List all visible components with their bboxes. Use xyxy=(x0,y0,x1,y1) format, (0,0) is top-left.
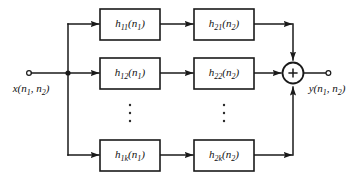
output-wire xyxy=(304,71,331,76)
ellipsis-right-column xyxy=(223,104,225,122)
filter-label-h2k: h2k(n2) xyxy=(209,149,239,163)
filter-label-h1k: h1k(n1) xyxy=(115,149,145,163)
input-wire xyxy=(27,70,71,75)
filter-label-h22: h22(n2) xyxy=(209,67,239,81)
filter-label-h12: h12(n1) xyxy=(115,67,145,81)
ellipsis-left-column xyxy=(129,104,131,122)
diagram-vector-layer xyxy=(0,0,355,180)
summing-node[interactable] xyxy=(283,63,304,84)
filter-label-h11: h11(n1) xyxy=(115,18,145,32)
output-signal-label: y(n1, n2) xyxy=(309,83,346,97)
filter-label-h21: h21(n2) xyxy=(209,18,239,32)
block-diagram-canvas: h11(n1) h21(n2) h12(n1) h22(n2) h1k(n1) … xyxy=(0,0,355,180)
output-terminal-icon xyxy=(326,71,331,76)
input-signal-label: x(n1, n2) xyxy=(13,83,50,97)
